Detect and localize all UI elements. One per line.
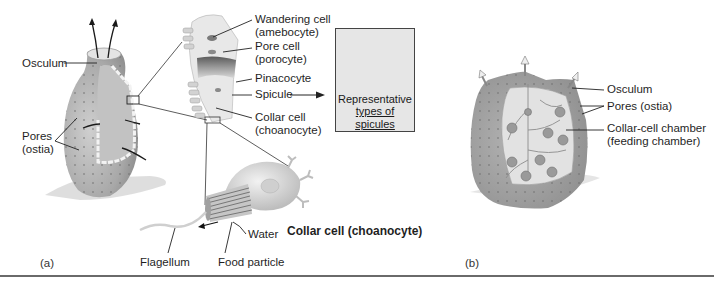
label-pinacocyte: Pinacocyte <box>255 72 311 85</box>
label-collar-cell-line2: (choanocyte) <box>255 124 321 137</box>
spicule-caption-line2: types of spicules <box>336 105 414 130</box>
label-wandering-cell: Wandering cell (amebocyte) <box>255 13 331 39</box>
label-pores-line1: Pores <box>22 130 54 143</box>
label-flagellum: Flagellum <box>140 256 190 269</box>
bottom-rule-divider <box>0 275 714 277</box>
label-pore-cell-line2: (porocyte) <box>255 53 307 66</box>
spicule-types-caption: Representative types of spicules <box>336 93 414 131</box>
label-chamber-line1: Collar-cell chamber <box>607 122 706 135</box>
label-pore-cell: Pore cell (porocyte) <box>255 40 307 66</box>
label-chamber: Collar-cell chamber (feeding chamber) <box>607 122 706 148</box>
label-spicule: Spicule <box>255 88 293 101</box>
label-water: Water <box>248 228 278 241</box>
vase-sponge-illustration <box>45 18 207 200</box>
label-pores-line2: (ostia) <box>22 143 54 156</box>
panel-label-a: (a) <box>40 257 54 269</box>
leuconoid-sponge-illustration <box>470 56 604 209</box>
spicule-types-box: Representative types of spicules <box>335 28 415 132</box>
label-pores-b: Pores (ostia) <box>607 100 672 113</box>
label-chamber-line2: (feeding chamber) <box>607 135 706 148</box>
label-collar-cell: Collar cell (choanocyte) <box>255 111 321 137</box>
label-collar-cell-title: Collar cell (choanocyte) <box>287 225 422 238</box>
label-collar-cell-line1: Collar cell <box>255 111 321 124</box>
label-pore-cell-line1: Pore cell <box>255 40 307 53</box>
panel-label-b: (b) <box>465 257 479 269</box>
label-pores-a: Pores (ostia) <box>22 130 54 156</box>
choanocyte-illustration <box>140 156 313 253</box>
label-food-particle: Food particle <box>218 256 284 269</box>
label-osculum-b: Osculum <box>607 83 652 96</box>
label-wandering-cell-line2: (amebocyte) <box>255 26 331 39</box>
spicule-caption-line1: Representative <box>336 93 414 106</box>
label-osculum-a: Osculum <box>22 57 67 70</box>
label-wandering-cell-line1: Wandering cell <box>255 13 331 26</box>
